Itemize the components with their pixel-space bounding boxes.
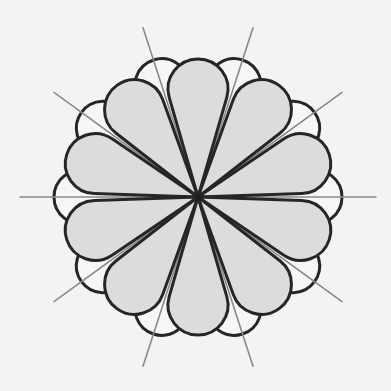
center-point [195,194,201,200]
flower-diagram [0,0,391,391]
